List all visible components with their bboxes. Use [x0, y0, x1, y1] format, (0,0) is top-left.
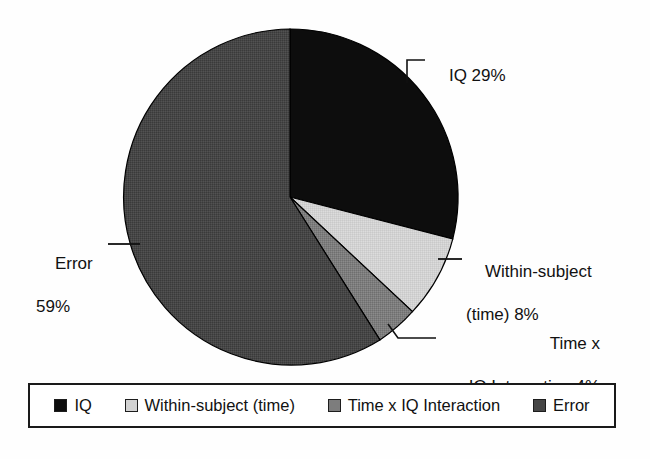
legend-label-error: Error	[553, 396, 590, 415]
legend-swatch-error	[533, 399, 546, 412]
chart-page: IQ 29% Within-subject (time) 8% Time x I…	[0, 0, 650, 459]
callout-iq-line1: IQ 29%	[449, 66, 506, 85]
legend-label-iq: IQ	[74, 396, 91, 415]
legend-label-time-iq-interaction: Time x IQ Interaction	[348, 396, 501, 415]
legend-swatch-iq	[54, 399, 67, 412]
legend-swatch-within-subject	[125, 399, 138, 412]
callout-timeiq-line1: Time x	[550, 334, 600, 353]
legend-item-iq: IQ	[54, 396, 91, 415]
callout-within-line1: Within-subject	[485, 262, 592, 281]
legend-label-within-subject: Within-subject (time)	[145, 396, 295, 415]
legend-item-within-subject: Within-subject (time)	[125, 396, 295, 415]
callout-label-error: Error 59%	[36, 232, 93, 360]
callout-error-line1: Error	[55, 254, 93, 273]
chart-legend: IQ Within-subject (time) Time x IQ Inter…	[28, 383, 616, 428]
callout-label-iq: IQ 29%	[430, 44, 506, 108]
callout-error-line2: 59%	[36, 296, 93, 317]
legend-swatch-time-iq-interaction	[328, 399, 341, 412]
legend-item-time-iq-interaction: Time x IQ Interaction	[328, 396, 501, 415]
legend-item-error: Error	[533, 396, 590, 415]
